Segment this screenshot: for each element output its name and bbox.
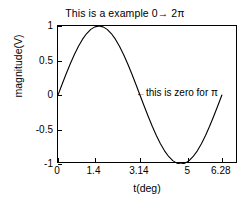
y-tick-mark-3: [58, 130, 62, 131]
x-tick-mark-0: [58, 158, 59, 162]
y-tick-mark-2: [58, 95, 62, 96]
x-tick-mark-3: [188, 158, 189, 162]
zero-crossing-annotation: ←this is zero for π: [136, 87, 218, 98]
y-tick-mark-1: [58, 61, 62, 62]
x-tick-label-3: 5: [185, 165, 191, 176]
y-tick-mark-0: [58, 26, 62, 27]
x-tick-mark-2: [140, 158, 141, 162]
y-tick-label-2: 0: [47, 89, 53, 100]
chart-figure: This is a example 0→ 2π magnitude(V) t(d…: [0, 0, 250, 205]
x-tick-label-1: 1.4: [87, 165, 101, 176]
x-tick-label-0: 0: [54, 165, 60, 176]
y-tick-mark-4: [58, 164, 62, 165]
y-tick-label-3: -0.5: [36, 123, 53, 134]
chart-title: This is a example 0→ 2π: [0, 7, 250, 19]
x-tick-label-4: 6.28: [211, 165, 230, 176]
x-tick-label-2: 3.14: [129, 165, 148, 176]
x-axis-label: t(deg): [57, 182, 237, 194]
y-tick-label-4: -1: [44, 158, 53, 169]
y-tick-label-0: 1: [47, 20, 53, 31]
x-tick-mark-1: [95, 158, 96, 162]
y-tick-label-1: 0.5: [39, 54, 53, 65]
y-axis-label: magnitude(V): [12, 16, 24, 116]
x-tick-mark-4: [222, 158, 223, 162]
